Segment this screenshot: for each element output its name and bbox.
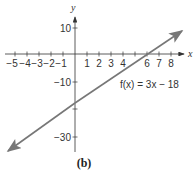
figure-caption: (b) [77,156,92,170]
graph: x y −5 −4 −3 −2 −1 1 2 3 4 6 7 8 [0,0,194,171]
y-axis-label: y [70,2,76,13]
svg-text:−2: −2 [43,58,55,69]
svg-text:−4: −4 [19,58,31,69]
y-tick-labels: 10 −10 −30 [54,23,71,143]
svg-text:4: 4 [120,58,126,69]
svg-text:7: 7 [156,58,162,69]
svg-text:3: 3 [108,58,114,69]
svg-text:8: 8 [168,58,174,69]
function-line [75,31,182,103]
svg-text:−30: −30 [54,132,71,143]
svg-text:−10: −10 [54,77,71,88]
svg-text:−3: −3 [31,58,43,69]
svg-text:−5: −5 [6,58,18,69]
svg-text:2: 2 [96,58,102,69]
svg-text:−1: −1 [55,58,67,69]
svg-text:10: 10 [60,23,72,34]
function-line-lower [8,103,75,151]
x-axis-label: x [187,48,193,59]
svg-text:6: 6 [144,58,150,69]
x-tick-labels: −5 −4 −3 −2 −1 1 2 3 4 6 7 8 [6,58,174,69]
svg-text:1: 1 [84,58,90,69]
function-label: f(x) = 3x − 18 [120,79,179,90]
